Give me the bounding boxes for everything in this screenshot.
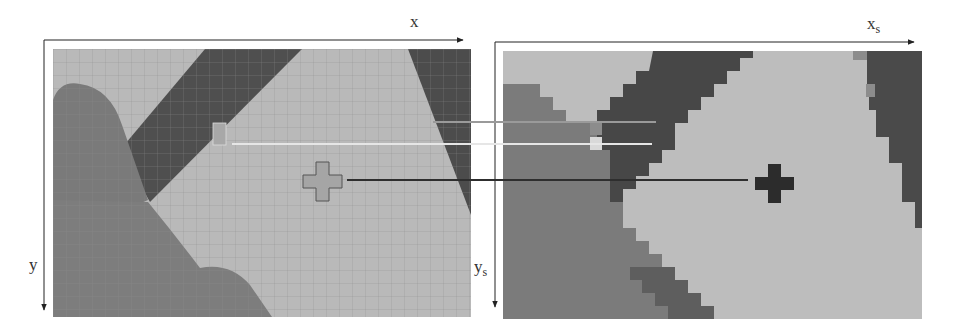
x-label-text: x — [410, 12, 419, 31]
left-image — [53, 49, 471, 317]
left-x-axis-label: x — [410, 12, 419, 32]
ys-label-text: y — [474, 257, 483, 276]
ys-subscript: s — [483, 265, 488, 279]
right-superpixel-image — [503, 51, 922, 319]
pixel-marker-small — [213, 123, 226, 145]
diagram-canvas — [0, 0, 954, 336]
xs-subscript: s — [876, 22, 881, 36]
y-label-text: y — [29, 255, 38, 274]
left-y-axis-label: y — [29, 255, 38, 275]
right-y-axis-label: ys — [474, 257, 487, 280]
xs-label-text: x — [867, 14, 876, 33]
right-x-axis-label: xs — [867, 14, 880, 37]
